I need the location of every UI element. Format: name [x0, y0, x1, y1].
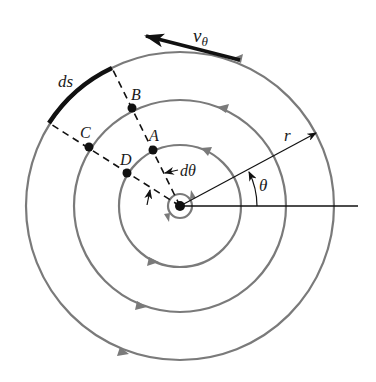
arrow-icon [164, 213, 170, 222]
point-D [123, 169, 132, 178]
label-v-theta: vθ [193, 25, 208, 49]
label-C: C [80, 124, 91, 141]
radial-line-DC [49, 123, 180, 206]
label-r: r [284, 126, 291, 145]
arrow-icon [147, 257, 159, 266]
arrow-icon [201, 147, 212, 156]
label-theta: θ [259, 176, 267, 195]
radius-arrow [180, 133, 316, 206]
label-B: B [131, 86, 141, 103]
vortex-diagram: A B C D ds dθ r θ vθ [0, 0, 376, 382]
label-A: A [148, 127, 159, 144]
label-dtheta: dθ [180, 162, 196, 179]
point-C [85, 143, 94, 152]
dtheta-lower-pointer [147, 190, 150, 205]
dtheta-pointer [165, 170, 178, 173]
vortex-center [175, 201, 185, 211]
point-B [128, 104, 137, 113]
label-ds: ds [58, 72, 74, 91]
fluid-element-points [85, 104, 186, 212]
label-v-subscript: θ [201, 34, 208, 49]
theta-arc [249, 172, 257, 206]
point-A [149, 146, 158, 155]
label-D: D [119, 151, 132, 168]
